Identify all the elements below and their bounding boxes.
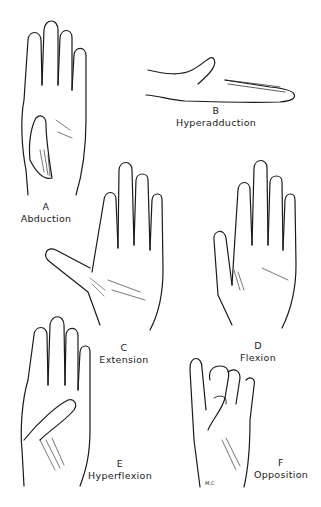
panel-letter-d: D bbox=[236, 340, 280, 352]
label-e: E Hyperflexion bbox=[84, 458, 156, 482]
hand-drawing-a bbox=[22, 21, 86, 195]
panel-name-abduction: Abduction bbox=[20, 213, 72, 225]
label-a: A Abduction bbox=[20, 201, 72, 225]
panel-name-hyperadduction: Hyperadduction bbox=[176, 117, 256, 129]
panel-letter-e: E bbox=[84, 458, 156, 470]
panel-name-flexion: Flexion bbox=[236, 352, 280, 364]
hand-drawing-c bbox=[46, 163, 163, 331]
hand-movements-illustration: M.C bbox=[0, 0, 321, 507]
artist-signature: M.C bbox=[205, 480, 215, 486]
hand-drawing-e bbox=[21, 317, 90, 486]
hand-drawing-b bbox=[146, 58, 294, 103]
hand-drawing-d bbox=[214, 161, 296, 329]
panel-letter-a: A bbox=[20, 201, 72, 213]
label-d: D Flexion bbox=[236, 340, 280, 364]
hand-drawing-f: M.C bbox=[190, 358, 254, 487]
panel-letter-c: C bbox=[94, 342, 154, 354]
label-c: C Extension bbox=[94, 342, 154, 366]
panel-letter-f: F bbox=[250, 457, 312, 469]
panel-letter-b: B bbox=[176, 105, 256, 117]
panel-name-hyperflexion: Hyperflexion bbox=[84, 470, 156, 482]
label-f: F Opposition bbox=[250, 457, 312, 481]
panel-name-extension: Extension bbox=[94, 354, 154, 366]
panel-name-opposition: Opposition bbox=[250, 469, 312, 481]
label-b: B Hyperadduction bbox=[176, 105, 256, 129]
